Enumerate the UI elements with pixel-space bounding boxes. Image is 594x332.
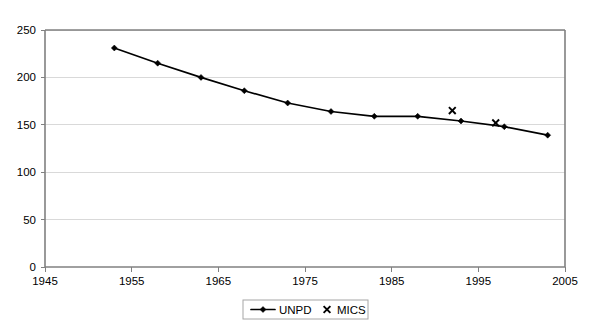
chart-container: 050100150200250 194519551965197519851995… (0, 0, 594, 332)
line-chart: 050100150200250 194519551965197519851995… (0, 0, 594, 332)
x-axis-label: 1975 (292, 275, 318, 287)
x-axis-label: 1965 (206, 275, 232, 287)
y-axis-label: 50 (23, 214, 36, 226)
x-axis-label: 1945 (32, 275, 58, 287)
y-axis-label: 100 (17, 166, 36, 178)
x-axis-label: 1995 (466, 275, 492, 287)
x-axis-label: 2005 (552, 275, 578, 287)
x-axis-label: 1985 (379, 275, 405, 287)
legend-label: MICS (337, 304, 366, 316)
y-axis-label: 0 (30, 261, 36, 273)
y-axis-label: 200 (17, 71, 36, 83)
legend-label: UNPD (279, 304, 312, 316)
y-axis-label: 250 (17, 24, 36, 36)
x-axis-label: 1955 (119, 275, 145, 287)
y-axis-label: 150 (17, 119, 36, 131)
chart-legend[interactable]: UNPDMICS (243, 300, 368, 319)
